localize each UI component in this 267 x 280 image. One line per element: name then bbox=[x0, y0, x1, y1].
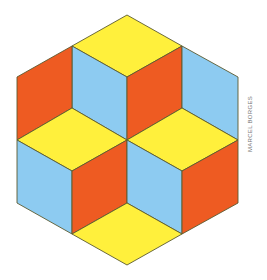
rhombus-faces bbox=[17, 15, 238, 265]
cube-tiling-figure bbox=[0, 0, 267, 280]
photo-credit: MARCEL BORGES bbox=[247, 96, 253, 152]
